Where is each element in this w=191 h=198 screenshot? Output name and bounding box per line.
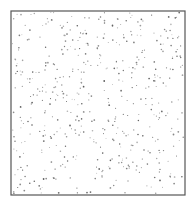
scatter-point	[52, 116, 53, 117]
scatter-point	[62, 53, 64, 55]
scatter-point	[112, 24, 114, 26]
scatter-point	[65, 166, 66, 167]
scatter-point	[159, 152, 160, 153]
scatter-point	[177, 118, 178, 119]
scatter-point	[15, 87, 16, 88]
scatter-point	[119, 143, 120, 144]
scatter-point	[155, 193, 157, 195]
scatter-point	[27, 78, 28, 79]
scatter-point	[111, 158, 113, 160]
scatter-point	[51, 161, 53, 163]
scatter-point	[119, 44, 120, 45]
scatter-point	[44, 112, 45, 113]
scatter-point	[101, 175, 102, 176]
scatter-point	[65, 40, 67, 42]
scatter-point	[37, 95, 38, 96]
scatter-point	[56, 131, 57, 132]
scatter-point	[20, 167, 21, 168]
scatter-point	[116, 61, 117, 62]
scatter-point	[104, 90, 105, 91]
scatter-point	[91, 121, 93, 123]
scatter-point	[137, 35, 138, 36]
scatter-point	[19, 35, 21, 37]
scatter-point	[136, 85, 137, 86]
scatter-point	[81, 118, 83, 120]
scatter-point	[156, 115, 157, 116]
scatter-point	[78, 69, 79, 70]
scatter-point	[153, 61, 155, 63]
scatter-point	[13, 112, 15, 114]
scatter-point	[47, 62, 49, 64]
scatter-point	[60, 150, 62, 152]
scatter-point	[81, 71, 82, 72]
scatter-point	[161, 111, 163, 113]
scatter-point	[156, 86, 157, 87]
scatter-point	[142, 50, 143, 51]
scatter-point	[169, 77, 170, 78]
scatter-point	[172, 58, 173, 59]
scatter-point	[140, 35, 141, 36]
scatter-point	[44, 69, 45, 70]
scatter-point	[32, 78, 33, 79]
scatter-point	[70, 46, 71, 47]
scatter-point	[85, 30, 86, 31]
scatter-point	[141, 18, 143, 20]
scatter-point	[50, 12, 51, 13]
scatter-point	[163, 43, 164, 44]
scatter-point	[44, 125, 45, 126]
scatter-point	[142, 158, 143, 159]
scatter-point	[98, 168, 100, 170]
scatter-point	[180, 66, 181, 67]
scatter-point	[123, 132, 125, 134]
scatter-point	[158, 150, 159, 151]
scatter-point	[108, 166, 109, 167]
scatter-point	[63, 93, 65, 95]
scatter-point	[128, 166, 130, 168]
scatter-point	[24, 141, 25, 142]
scatter-point	[170, 68, 171, 69]
scatter-point	[20, 14, 22, 16]
scatter-point	[56, 145, 57, 146]
scatter-point	[47, 18, 48, 19]
scatter-point	[75, 133, 76, 134]
scatter-point	[69, 76, 70, 77]
scatter-point	[78, 120, 80, 122]
scatter-point	[117, 18, 119, 20]
scatter-point	[96, 173, 97, 174]
scatter-point	[30, 14, 31, 15]
scatter-point	[60, 25, 61, 26]
scatter-point	[79, 48, 80, 49]
scatter-point	[142, 66, 144, 68]
scatter-point	[80, 87, 81, 88]
scatter-point	[29, 29, 31, 31]
scatter-point	[12, 43, 13, 44]
scatter-point	[82, 33, 84, 35]
scatter-point	[74, 48, 76, 50]
scatter-point	[43, 140, 45, 142]
scatter-point	[64, 156, 66, 158]
scatter-point	[116, 133, 117, 134]
scatter-point	[53, 177, 55, 179]
scatter-point	[160, 44, 162, 46]
scatter-point	[83, 111, 85, 113]
scatter-point	[121, 96, 122, 97]
scatter-point	[99, 58, 100, 59]
scatter-point	[80, 32, 81, 33]
scatter-point	[167, 112, 168, 113]
scatter-point	[40, 188, 41, 189]
scatter-point	[42, 90, 43, 91]
scatter-point	[60, 128, 61, 129]
scatter-point	[42, 100, 43, 101]
scatter-point	[60, 165, 62, 167]
scatter-point	[56, 69, 57, 70]
scatter-point	[39, 131, 40, 132]
scatter-point	[127, 100, 128, 101]
scatter-point	[179, 140, 180, 141]
scatter-point	[154, 177, 156, 179]
scatter-point	[131, 145, 132, 146]
scatter-point	[21, 74, 22, 75]
scatter-point	[100, 16, 102, 18]
scatter-point	[131, 34, 132, 35]
scatter-point	[55, 78, 57, 80]
scatter-point	[43, 178, 45, 180]
